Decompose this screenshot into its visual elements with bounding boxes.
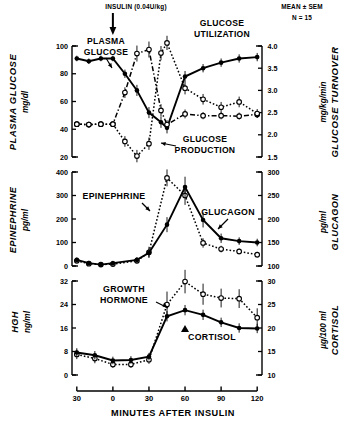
axis-tick-label: 100	[56, 238, 68, 247]
pointer-arrow-icon	[142, 203, 150, 211]
axis-tick-label: 8	[64, 347, 68, 356]
data-point	[183, 86, 188, 91]
x-axis: 300306090120	[73, 387, 264, 404]
data-point	[183, 185, 188, 190]
data-point	[165, 122, 170, 127]
data-point	[237, 114, 242, 119]
axis-tick-label: 100	[56, 42, 68, 51]
axis-tick-label: 300	[56, 191, 68, 200]
data-point	[237, 249, 242, 254]
data-point	[75, 350, 80, 355]
data-point	[99, 122, 104, 127]
top-left-axis: 20406080100	[56, 42, 78, 162]
bottom-right-axis-title: CORTISOL	[330, 305, 340, 356]
axis-tick-label: 200	[268, 215, 280, 224]
triangle-marker	[181, 325, 189, 332]
glucose-production-label: GLUCOSE	[183, 134, 228, 144]
bottom-left-axis-unit: ng/ml	[23, 310, 32, 333]
data-point	[201, 218, 206, 223]
axis-tick-label: 30	[268, 277, 276, 286]
middle-right-axis-title: GLUCAGON	[330, 194, 340, 251]
top-right-axis-title: GLUCOSE TURNOVER	[329, 46, 340, 157]
top-left-axis-title: PLASMA GLUCOSE	[7, 54, 18, 151]
middle-left-axis: 0100200300400	[56, 168, 78, 271]
axis-tick-label: 32	[60, 277, 68, 286]
data-point	[159, 120, 164, 125]
middle-left-axis-unit: pg/ml	[21, 208, 30, 232]
axis-tick-label: 1.5	[268, 153, 278, 162]
data-point	[93, 353, 98, 358]
epinephrine-label: EPINEPHRINE	[83, 191, 146, 201]
x-axis-tick-label: 120	[251, 394, 264, 403]
data-point	[135, 258, 140, 263]
data-point	[147, 47, 152, 52]
data-point	[147, 354, 152, 359]
data-point	[183, 279, 188, 284]
data-point	[87, 261, 92, 266]
data-point	[183, 112, 188, 117]
data-point	[87, 122, 92, 127]
plasma-glucose-label: GLUCOSE	[84, 47, 129, 57]
pointer-arrow-icon	[218, 219, 228, 229]
axis-tick-label: 40	[60, 125, 68, 134]
axis-tick-label: 24	[60, 300, 68, 309]
data-point	[111, 122, 116, 127]
data-point	[111, 358, 116, 363]
data-point	[255, 315, 260, 320]
x-axis-tick-label: 30	[73, 394, 81, 403]
growth-hormone-label: GROWTH	[103, 284, 145, 294]
axis-tick-label: 3.5	[268, 64, 278, 73]
axis-tick-label: 150	[268, 238, 280, 247]
axis-tick-label: 3.0	[268, 86, 278, 95]
data-point	[165, 222, 170, 227]
data-point	[75, 122, 80, 127]
data-point	[99, 262, 104, 267]
data-point	[123, 139, 128, 144]
axis-tick-label: 2.0	[268, 130, 278, 139]
data-point	[147, 251, 152, 256]
glucose-production-label: PRODUCTION	[175, 145, 236, 155]
x-axis-tick-label: 30	[145, 394, 153, 403]
axis-tick-label: 2.5	[268, 108, 278, 117]
data-point	[135, 154, 140, 159]
data-point	[129, 358, 134, 363]
data-point	[219, 113, 224, 118]
data-point	[201, 241, 206, 246]
data-point	[183, 308, 188, 313]
bottom-left-axis: 08162432	[60, 277, 78, 380]
x-axis-tick-label: 60	[181, 394, 189, 403]
series-line	[77, 57, 257, 128]
axis-tick-label: 400	[56, 168, 68, 177]
figure-root: INSULIN (0.04U/kg)MEAN ± SEMN = 15204060…	[0, 0, 346, 425]
data-point	[159, 51, 164, 56]
data-point	[255, 111, 260, 116]
glucose-utilization-label: GLUCOSE	[200, 18, 245, 28]
data-point	[201, 113, 206, 118]
data-point	[237, 56, 242, 61]
data-point	[219, 296, 224, 301]
data-point	[219, 320, 224, 325]
data-point	[201, 66, 206, 71]
data-point	[165, 314, 170, 319]
data-point	[237, 326, 242, 331]
insulin-annotation: INSULIN (0.04U/kg)	[105, 3, 166, 11]
pointer-arrow-icon	[161, 142, 176, 146]
data-point	[219, 236, 224, 241]
data-point	[75, 258, 80, 263]
data-point	[123, 90, 128, 95]
x-axis-tick-label: 0	[111, 394, 115, 403]
data-point	[87, 59, 92, 64]
x-axis-title: MINUTES AFTER INSULIN	[111, 408, 235, 418]
axis-tick-label: 0	[64, 262, 68, 271]
data-point	[165, 41, 170, 46]
axis-tick-label: 10	[268, 371, 276, 380]
data-point	[165, 176, 170, 181]
sample-size-annotation: N = 15	[292, 14, 312, 21]
axis-tick-label: 0	[64, 371, 68, 380]
axis-tick-label: 15	[268, 347, 276, 356]
axis-tick-label: 4.0	[268, 42, 278, 51]
data-point	[183, 74, 188, 79]
top-left-axis-unit: mg/dl	[21, 90, 30, 113]
data-point	[219, 247, 224, 252]
data-point	[147, 141, 152, 146]
